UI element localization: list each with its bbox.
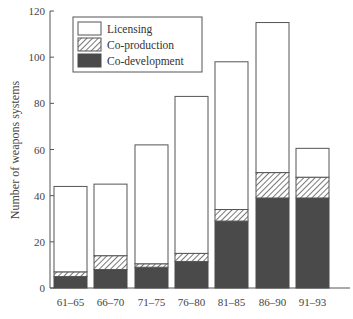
bar-segment-co-development [215, 221, 248, 288]
bar-segment-co-development [54, 276, 87, 288]
legend-item-co-development: Co-development [78, 54, 184, 68]
bar-61–65 [54, 186, 87, 288]
bar-segment-licensing [296, 148, 329, 177]
bar-segment-licensing [54, 186, 87, 271]
legend-swatch-dark-icon [78, 54, 101, 67]
y-tick-label: 0 [40, 282, 46, 294]
bar-segment-licensing [215, 62, 248, 210]
bar-segment-co-production [296, 177, 329, 198]
bar-segment-licensing [94, 184, 127, 256]
bar-86–90 [256, 23, 289, 288]
bar-segment-co-development [94, 270, 127, 288]
bar-segment-co-production [54, 272, 87, 277]
bar-segment-licensing [135, 145, 168, 264]
legend-swatch-white-icon [78, 22, 101, 35]
x-tick-label: 91–93 [299, 296, 327, 308]
bar-segment-licensing [175, 96, 208, 253]
x-axis: 61–6566–7071–7576–8081–8586–9091–93 [50, 288, 350, 308]
bar-segment-co-development [175, 261, 208, 288]
bar-segment-co-production [215, 210, 248, 222]
x-tick-label: 86–90 [259, 296, 287, 308]
legend: Licensing Co-production Co-development [73, 17, 202, 72]
legend-item-licensing: Licensing [78, 22, 153, 36]
stacked-bar-chart: 020406080100120 61–6566–7071–7576–8081–8… [0, 0, 353, 319]
x-tick-label: 66–70 [97, 296, 125, 308]
svg-text:Co-development: Co-development [107, 55, 184, 68]
bar-76–80 [175, 96, 208, 288]
y-tick-label: 100 [29, 51, 46, 63]
bar-segment-co-development [135, 267, 168, 288]
bar-segment-co-production [175, 253, 208, 261]
y-tick-label: 20 [34, 236, 46, 248]
y-tick-label: 60 [34, 144, 46, 156]
bar-71–75 [135, 145, 168, 288]
svg-text:Licensing: Licensing [107, 23, 153, 36]
svg-text:Co-production: Co-production [107, 39, 174, 52]
x-tick-label: 76–80 [178, 296, 206, 308]
y-tick-label: 40 [34, 190, 46, 202]
bar-segment-co-development [256, 198, 289, 288]
legend-item-co-production: Co-production [78, 38, 174, 52]
x-tick-label: 81–85 [218, 296, 246, 308]
x-tick-label: 71–75 [138, 296, 166, 308]
y-axis: 020406080100120 [29, 5, 55, 294]
bar-91–93 [296, 148, 329, 288]
bar-segment-co-production [135, 264, 168, 267]
x-tick-label: 61–65 [57, 296, 85, 308]
bar-66–70 [94, 184, 127, 288]
bar-segment-licensing [256, 23, 289, 173]
bar-81–85 [215, 62, 248, 288]
y-tick-label: 80 [34, 97, 46, 109]
bar-segment-co-production [256, 173, 289, 198]
y-axis-title: Number of weapons systems [8, 81, 22, 220]
bar-segment-co-development [296, 198, 329, 288]
y-tick-label: 120 [29, 5, 46, 17]
bar-segment-co-production [94, 256, 127, 270]
legend-swatch-hatched-icon [78, 38, 101, 51]
